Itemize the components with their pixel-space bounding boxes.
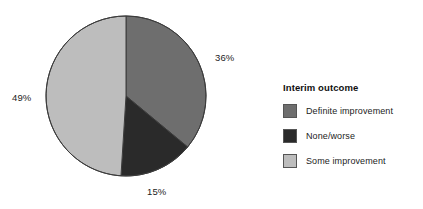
legend-swatch-definite-improvement: [283, 104, 297, 118]
pie-data-label-definite-improvement: 36%: [215, 52, 234, 63]
legend-item-definite-improvement: Definite improvement: [283, 104, 419, 118]
pie-data-label-none-worse: 15%: [147, 186, 166, 197]
legend-item-none-worse: None/worse: [283, 129, 419, 143]
pie-chart-figure: 36% 15% 49% Interim outcome Definite imp…: [0, 0, 423, 209]
legend-label-some-improvement: Some improvement: [306, 156, 386, 166]
pie-chart-graphic: [0, 0, 270, 209]
legend-swatch-none-worse: [283, 129, 297, 143]
legend-title: Interim outcome: [283, 82, 419, 93]
pie-chart-plot-area: 36% 15% 49%: [0, 0, 270, 209]
pie-data-label-some-improvement: 49%: [12, 92, 31, 103]
legend-label-definite-improvement: Definite improvement: [306, 106, 393, 116]
legend: Interim outcome Definite improvement Non…: [283, 82, 419, 179]
legend-label-none-worse: None/worse: [306, 131, 355, 141]
pie-slice-some-improvement: [46, 16, 126, 176]
legend-swatch-some-improvement: [283, 154, 297, 168]
legend-item-some-improvement: Some improvement: [283, 154, 419, 168]
